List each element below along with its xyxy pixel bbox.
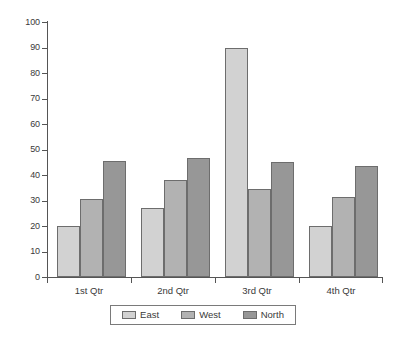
- legend-entry-east[interactable]: East: [122, 310, 159, 320]
- bar-east-2nd-qtr[interactable]: [141, 208, 164, 277]
- page-bottom-artifact: [4, 338, 264, 346]
- bar-north-2nd-qtr[interactable]: [187, 158, 210, 277]
- y-axis-tick-label: 30: [12, 196, 40, 205]
- y-axis-tick-label: 60: [12, 120, 40, 129]
- x-axis-category-label: 2nd Qtr: [128, 285, 218, 296]
- bar-north-3rd-qtr[interactable]: [271, 162, 294, 277]
- x-axis-tick: [382, 278, 383, 283]
- bar-chart: 100 90 80 70 60 50 40 30 20 10 0: [0, 0, 405, 347]
- x-axis-tick: [215, 278, 216, 283]
- bar-group-1st-qtr: [57, 22, 126, 277]
- legend-swatch-icon: [181, 311, 195, 319]
- y-axis-tick-label: 100: [12, 18, 40, 27]
- y-axis-tick-label: 20: [12, 222, 40, 231]
- bar-east-1st-qtr[interactable]: [57, 226, 80, 277]
- y-axis-tick-label: 40: [12, 171, 40, 180]
- legend-label: East: [140, 310, 159, 320]
- bar-west-2nd-qtr[interactable]: [164, 180, 187, 277]
- legend-label: North: [261, 310, 284, 320]
- bar-north-1st-qtr[interactable]: [103, 161, 126, 277]
- y-axis-tick-label: 90: [12, 43, 40, 52]
- x-axis-category-label: 3rd Qtr: [212, 285, 302, 296]
- bar-east-4th-qtr[interactable]: [309, 226, 332, 277]
- x-axis-category-label: 4th Qtr: [296, 285, 386, 296]
- bar-group-4th-qtr: [309, 22, 378, 277]
- bar-east-3rd-qtr[interactable]: [225, 48, 248, 278]
- x-axis-category-label: 1st Qtr: [44, 285, 134, 296]
- legend-entry-west[interactable]: West: [181, 310, 220, 320]
- y-axis-tick-label: 70: [12, 94, 40, 103]
- chart-legend: East West North: [110, 305, 296, 325]
- legend-entry-north[interactable]: North: [243, 310, 284, 320]
- bar-group-2nd-qtr: [141, 22, 210, 277]
- bar-group-3rd-qtr: [225, 22, 294, 277]
- legend-label: West: [199, 310, 220, 320]
- bar-west-1st-qtr[interactable]: [80, 199, 103, 277]
- bar-west-3rd-qtr[interactable]: [248, 189, 271, 277]
- x-axis-tick: [47, 278, 48, 283]
- y-axis-tick-label: 80: [12, 69, 40, 78]
- y-axis-tick-label: 10: [12, 247, 40, 256]
- legend-swatch-icon: [122, 311, 136, 319]
- legend-swatch-icon: [243, 311, 257, 319]
- plot-area: [48, 22, 381, 277]
- y-axis-tick-label: 50: [12, 145, 40, 154]
- bar-north-4th-qtr[interactable]: [355, 166, 378, 277]
- x-axis-tick: [299, 278, 300, 283]
- y-axis-tick-label: 0: [12, 273, 40, 282]
- x-axis-tick: [131, 278, 132, 283]
- bar-west-4th-qtr[interactable]: [332, 197, 355, 277]
- y-axis-labels: 100 90 80 70 60 50 40 30 20 10 0: [6, 0, 40, 347]
